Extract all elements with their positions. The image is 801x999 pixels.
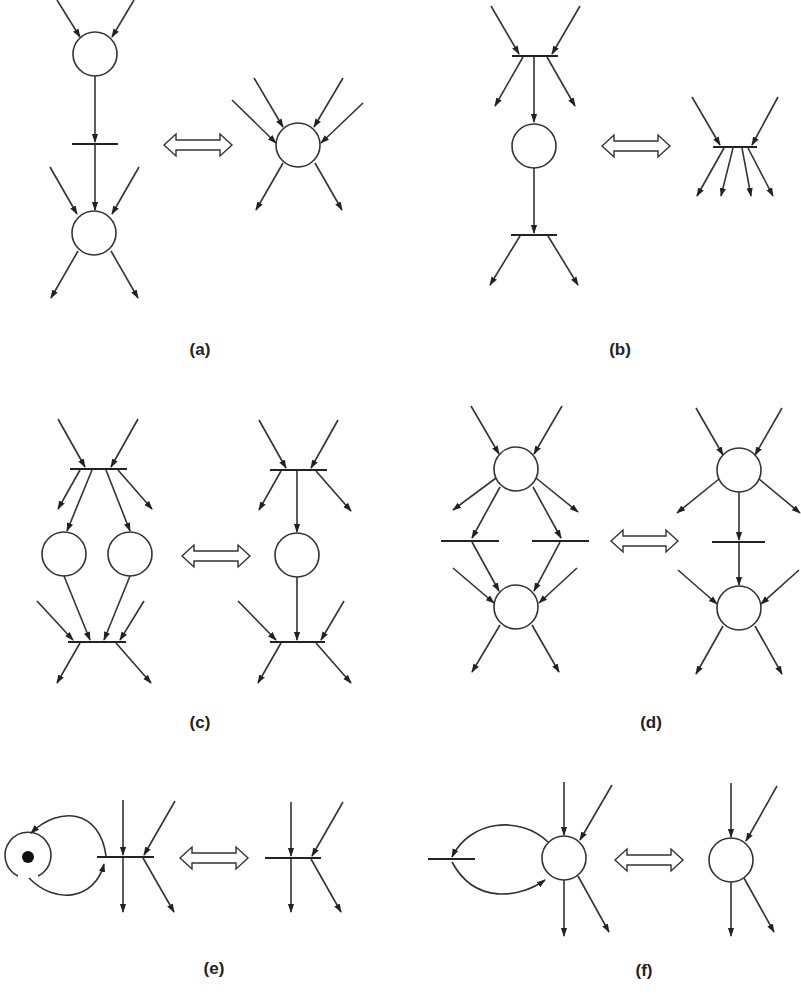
panel-e-right-net [265, 802, 343, 912]
panel-c-label: (c) [190, 713, 211, 732]
place-circle [512, 124, 556, 168]
place-circle [542, 836, 586, 880]
place-circle [72, 211, 116, 255]
panel-c-left-net [37, 419, 152, 683]
panel-f-left-net [428, 782, 612, 936]
place-circle [276, 123, 320, 167]
panel-e-label: (e) [204, 959, 225, 978]
equivalence-arrow-icon [164, 134, 232, 156]
panel-b: (b) [490, 6, 778, 359]
place-circle [494, 585, 538, 629]
panel-d-left-net [441, 406, 589, 672]
panel-a: (a) [50, 0, 363, 359]
petri-net-reduction-figure: (a) (b) [0, 0, 801, 999]
panel-d-label: (d) [640, 713, 662, 732]
panel-b-label: (b) [609, 340, 631, 359]
panel-b-left-net [490, 6, 580, 285]
panel-f-right-net [709, 783, 777, 936]
equivalence-arrow-icon [182, 545, 250, 567]
panel-b-right-net [692, 97, 778, 196]
place-circle [709, 838, 753, 882]
place-circle [717, 448, 761, 492]
panel-a-label: (a) [190, 340, 211, 359]
panel-e-left-net [5, 800, 175, 912]
panel-c: (c) [37, 419, 351, 732]
panel-f: (f) [428, 782, 777, 980]
panel-e: (e) [5, 800, 343, 978]
panel-a-left-net [50, 0, 139, 298]
place-circle [717, 586, 761, 630]
place-circle [275, 533, 319, 577]
place-circle [42, 532, 86, 576]
token-dot-icon [22, 851, 34, 863]
panel-d: (d) [441, 406, 800, 732]
panel-c-right-net [238, 420, 351, 683]
place-circle [494, 447, 538, 491]
panel-f-label: (f) [636, 961, 653, 980]
equivalence-arrow-icon [180, 847, 248, 869]
panel-d-right-net [677, 408, 800, 674]
equivalence-arrow-icon [602, 135, 670, 157]
equivalence-arrow-icon [615, 849, 683, 871]
equivalence-arrow-icon [611, 530, 678, 552]
place-circle [73, 32, 117, 76]
panel-a-right-net [232, 78, 363, 210]
place-circle [108, 532, 152, 576]
